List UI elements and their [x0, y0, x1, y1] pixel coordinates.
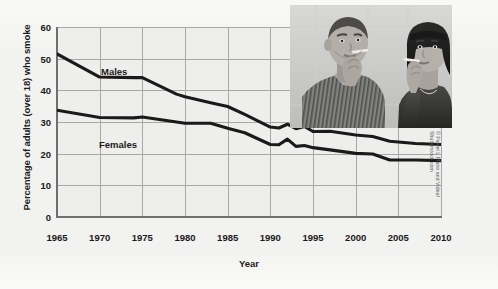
- series-label-females: Females: [99, 139, 137, 150]
- x-tick-label: 1970: [78, 232, 122, 243]
- x-tick-label: 1995: [291, 232, 335, 243]
- x-axis-label: Year: [0, 258, 498, 269]
- y-tick-label: 60: [15, 22, 51, 33]
- x-tick-label: 1980: [163, 232, 207, 243]
- photo-credit: © Pawel L Photo and Video/ Shutterstock.…: [429, 131, 441, 231]
- x-tick-label: 2005: [376, 232, 420, 243]
- y-tick-label: 40: [15, 85, 51, 96]
- y-tick-label: 20: [15, 148, 51, 159]
- x-tick-label: 1985: [206, 232, 250, 243]
- x-tick-label: 1975: [120, 232, 164, 243]
- x-tick-label: 1965: [35, 232, 79, 243]
- y-tick-label: 0: [15, 212, 51, 223]
- y-tick-label: 50: [15, 53, 51, 64]
- series-label-males: Males: [101, 66, 127, 77]
- figure-container: Percentage of adults (over 18) who smoke…: [0, 0, 498, 289]
- y-tick-label: 30: [15, 117, 51, 128]
- x-tick-label: 2000: [334, 232, 378, 243]
- photo-artwork: [290, 5, 452, 128]
- y-tick-label: 10: [15, 180, 51, 191]
- x-tick-label: 2010: [419, 232, 463, 243]
- smoking-couple-photo: [290, 5, 452, 128]
- x-tick-label: 1990: [248, 232, 292, 243]
